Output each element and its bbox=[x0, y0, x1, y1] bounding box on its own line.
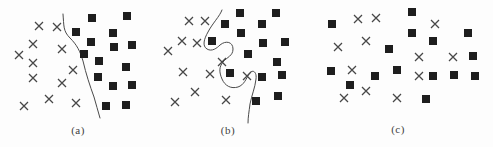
cross-marker bbox=[340, 94, 348, 102]
cross-marker bbox=[193, 39, 201, 47]
square-marker bbox=[422, 95, 430, 103]
panel-label-a: (a) bbox=[71, 124, 85, 136]
square-marker bbox=[429, 37, 437, 45]
cross-marker bbox=[218, 58, 226, 66]
square-marker bbox=[273, 58, 281, 66]
square-marker bbox=[429, 72, 437, 80]
cross-marker bbox=[191, 88, 199, 96]
cross-marker bbox=[362, 87, 370, 95]
cross-marker bbox=[179, 68, 187, 76]
cross-marker bbox=[431, 20, 439, 28]
square-marker bbox=[128, 41, 136, 49]
cross-marker bbox=[29, 59, 37, 67]
cross-marker bbox=[29, 40, 37, 48]
decision-boundary-a bbox=[63, 14, 100, 118]
square-marker bbox=[110, 43, 118, 51]
square-marker bbox=[128, 81, 136, 89]
square-marker bbox=[327, 67, 335, 75]
square-marker bbox=[346, 81, 354, 89]
square-marker bbox=[281, 38, 289, 46]
cross-marker bbox=[35, 22, 43, 30]
panel-label-c: (c) bbox=[391, 123, 405, 135]
square-marker bbox=[94, 73, 102, 81]
square-marker bbox=[122, 101, 130, 109]
cross-marker bbox=[178, 37, 186, 45]
cross-marker bbox=[72, 99, 80, 107]
square-marker bbox=[109, 29, 117, 37]
cross-marker bbox=[29, 74, 37, 82]
square-marker bbox=[328, 20, 336, 28]
cross-marker bbox=[58, 45, 66, 53]
square-marker bbox=[408, 8, 416, 16]
cross-marker bbox=[334, 43, 342, 51]
square-marker bbox=[72, 28, 80, 36]
square-marker bbox=[236, 9, 244, 17]
square-marker bbox=[208, 37, 216, 45]
cross-marker bbox=[362, 37, 370, 45]
square-marker bbox=[371, 72, 379, 80]
square-marker bbox=[385, 45, 393, 53]
square-marker bbox=[88, 14, 96, 22]
square-marker bbox=[278, 71, 286, 79]
cross-marker bbox=[185, 17, 193, 25]
square-marker bbox=[259, 39, 267, 47]
cross-marker bbox=[69, 66, 77, 74]
square-marker bbox=[226, 69, 234, 77]
square-marker bbox=[252, 97, 260, 105]
cross-marker bbox=[45, 95, 53, 103]
cross-marker bbox=[206, 70, 214, 78]
cross-marker bbox=[415, 53, 423, 61]
square-marker bbox=[471, 72, 479, 80]
square-marker bbox=[258, 73, 266, 81]
overfitting-comparison-figure: (a) (b) (c) bbox=[0, 0, 493, 147]
cross-marker bbox=[201, 17, 209, 25]
square-marker bbox=[80, 50, 88, 58]
cross-marker bbox=[348, 66, 356, 74]
decision-boundary-b bbox=[204, 10, 256, 123]
square-marker bbox=[450, 71, 458, 79]
cross-marker bbox=[222, 96, 230, 104]
cross-marker bbox=[53, 23, 61, 31]
square-marker bbox=[122, 63, 130, 71]
cross-marker bbox=[449, 53, 457, 61]
cross-marker bbox=[393, 94, 401, 102]
square-marker bbox=[87, 38, 95, 46]
square-marker bbox=[102, 102, 110, 110]
cross-marker bbox=[372, 14, 380, 22]
square-marker bbox=[464, 29, 472, 37]
square-marker bbox=[221, 20, 229, 28]
cross-marker bbox=[171, 98, 179, 106]
cross-marker bbox=[164, 47, 172, 55]
square-marker bbox=[109, 82, 117, 90]
square-marker bbox=[258, 20, 266, 28]
cross-marker bbox=[243, 72, 251, 80]
panel-label-b: (b) bbox=[221, 124, 235, 136]
square-marker bbox=[393, 66, 401, 74]
cross-marker bbox=[20, 102, 28, 110]
square-marker bbox=[408, 29, 416, 37]
cross-marker bbox=[58, 79, 66, 87]
square-marker bbox=[95, 57, 103, 65]
square-marker bbox=[469, 52, 477, 60]
cross-marker bbox=[354, 15, 362, 23]
square-marker bbox=[244, 50, 252, 58]
square-marker bbox=[237, 29, 245, 37]
square-marker bbox=[272, 9, 280, 17]
cross-marker bbox=[415, 72, 423, 80]
cross-marker bbox=[15, 51, 23, 59]
square-marker bbox=[274, 92, 282, 100]
square-marker bbox=[123, 12, 131, 20]
